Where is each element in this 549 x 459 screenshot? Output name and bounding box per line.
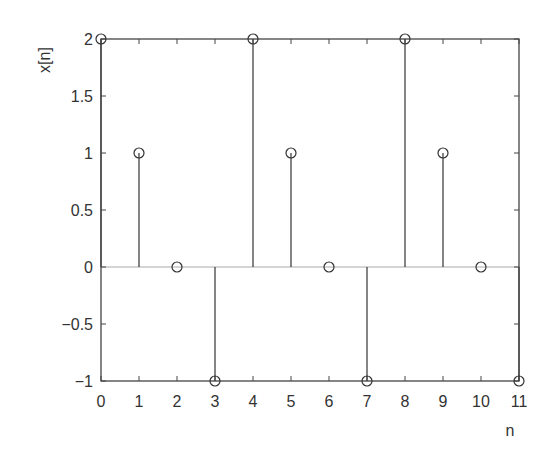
y-axis-label: x[n] (36, 47, 53, 73)
x-tick-label: 9 (439, 393, 448, 410)
x-tick-label: 0 (97, 393, 106, 410)
axes-frame (101, 39, 519, 381)
stem-plot: 0123456789101121.510.50−0.5−1 n x[n] (0, 0, 549, 459)
x-tick-label: 4 (249, 393, 258, 410)
x-tick-label: 3 (211, 393, 220, 410)
x-tick-label: 11 (511, 393, 528, 410)
y-tick-label: 0 (84, 259, 93, 276)
x-tick-label: 2 (173, 393, 182, 410)
stem-markers (96, 34, 524, 386)
y-tick-label: 1 (84, 145, 93, 162)
x-axis-label: n (506, 422, 515, 439)
x-tick-label: 1 (135, 393, 144, 410)
ticks (101, 39, 519, 381)
tick-labels: 0123456789101121.510.50−0.5−1 (61, 31, 527, 410)
x-tick-label: 10 (472, 393, 490, 410)
x-tick-label: 8 (401, 393, 410, 410)
y-tick-label: −0.5 (61, 316, 93, 333)
stems (101, 39, 519, 381)
y-tick-label: −1 (75, 373, 93, 390)
x-tick-label: 7 (363, 393, 372, 410)
x-tick-label: 6 (325, 393, 334, 410)
y-tick-label: 2 (84, 31, 93, 48)
axes-box (101, 39, 519, 381)
y-tick-label: 0.5 (71, 202, 93, 219)
x-tick-label: 5 (287, 393, 296, 410)
y-tick-label: 1.5 (71, 88, 93, 105)
